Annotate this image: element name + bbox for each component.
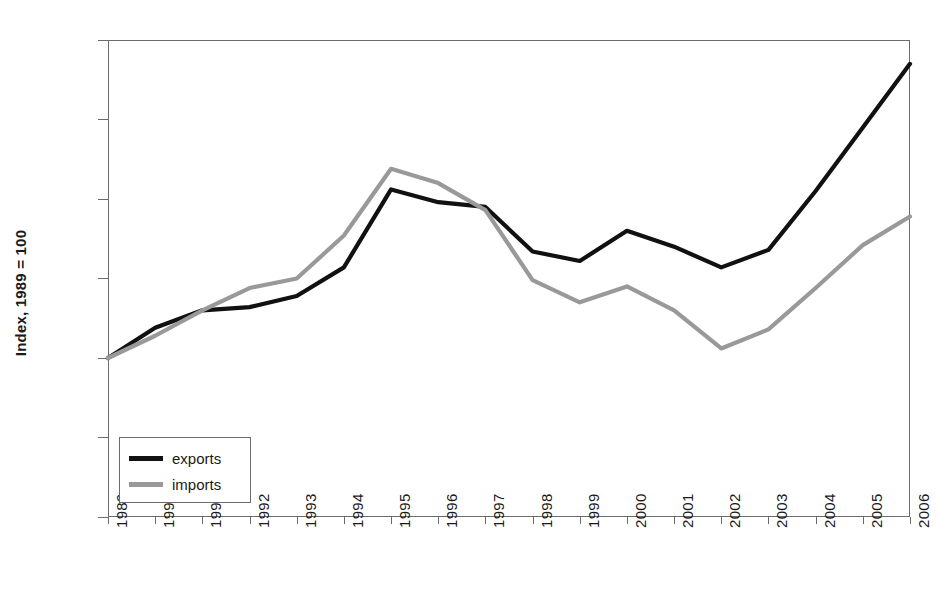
x-tick-mark: [816, 517, 817, 524]
x-tick-mark: [344, 517, 345, 524]
y-axis-ticks: 9095100105110115120: [0, 0, 108, 606]
legend-label-imports: imports: [172, 477, 221, 492]
y-tick-mark: [98, 278, 108, 279]
x-tick-mark: [580, 517, 581, 524]
x-tick-mark: [108, 517, 109, 524]
y-tick-mark: [98, 199, 108, 200]
x-tick-mark: [438, 517, 439, 524]
x-tick-mark: [391, 517, 392, 524]
legend-swatch-exports: [129, 456, 163, 461]
series-line-imports: [108, 169, 910, 358]
legend-item-exports: exports: [120, 445, 250, 471]
series-line-exports: [108, 64, 910, 358]
legend-label-exports: exports: [172, 451, 221, 466]
y-tick-mark: [98, 517, 108, 518]
legend: exports imports: [119, 437, 251, 503]
legend-item-imports: imports: [120, 471, 250, 497]
x-tick-mark: [155, 517, 156, 524]
legend-swatch-imports: [129, 482, 163, 487]
y-tick-mark: [98, 119, 108, 120]
chart-container: Index, 1989 = 100 9095100105110115120 19…: [0, 0, 939, 606]
x-tick-mark: [863, 517, 864, 524]
x-tick-mark: [202, 517, 203, 524]
x-tick-mark: [297, 517, 298, 524]
x-tick-mark: [250, 517, 251, 524]
x-tick-mark: [768, 517, 769, 524]
y-tick-mark: [98, 40, 108, 41]
x-tick-mark: [674, 517, 675, 524]
x-tick-mark: [533, 517, 534, 524]
x-tick-mark: [485, 517, 486, 524]
y-tick-mark: [98, 437, 108, 438]
x-tick-mark: [627, 517, 628, 524]
x-tick-mark: [910, 517, 911, 524]
x-tick-mark: [721, 517, 722, 524]
x-tick-label: 2006: [916, 493, 931, 528]
